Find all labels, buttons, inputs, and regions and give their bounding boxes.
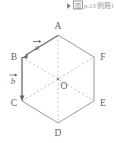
edge-DE — [58, 101, 94, 123]
vector-b-arrowhead — [20, 96, 25, 102]
center-label-O: O — [61, 81, 68, 91]
vertex-label-D: D — [55, 128, 62, 138]
vector-a-shaft — [26, 36, 59, 56]
edge-FA — [58, 35, 94, 57]
vertex-label-E: E — [100, 98, 106, 108]
vertex-label-B: B — [11, 52, 17, 62]
vertex-label-F: F — [100, 52, 105, 62]
vector-a-label-bar-arrow — [39, 40, 42, 43]
vector-a-label: a — [35, 42, 39, 52]
figure-page: 図 p.13 例題1 — [0, 0, 116, 143]
center-point-O — [57, 78, 59, 80]
vector-b — [20, 57, 25, 102]
vector-a-arrowhead — [22, 54, 28, 59]
reference-text: p.13 例題1 — [84, 2, 114, 10]
play-triangle-icon — [67, 3, 71, 9]
vertex-label-C: C — [11, 98, 17, 108]
vertex-label-A: A — [55, 21, 62, 31]
vector-b-label-group: b — [10, 74, 18, 86]
hexagon-figure: A B C D E F O a b — [0, 11, 116, 143]
edge-CD — [22, 101, 58, 123]
vector-b-label: b — [11, 76, 15, 86]
vector-b-label-bar-arrow — [15, 74, 18, 77]
boxed-label: 図 — [73, 1, 83, 10]
vector-a — [22, 36, 58, 59]
reference-line: 図 p.13 例題1 — [67, 0, 114, 11]
